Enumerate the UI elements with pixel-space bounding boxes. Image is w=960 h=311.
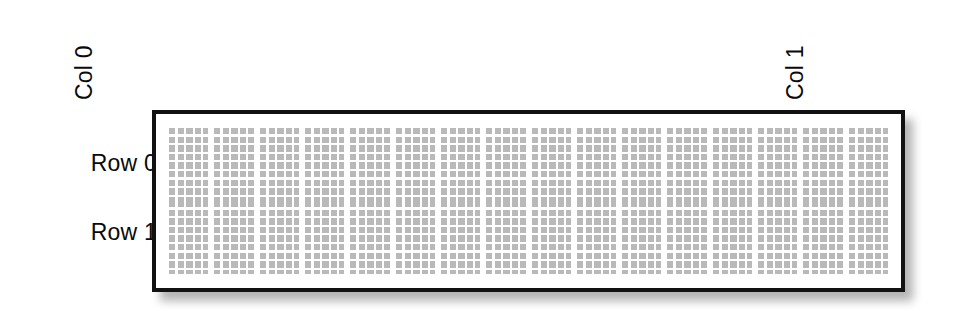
plate-cell-r1-c14 — [803, 201, 842, 274]
figure-canvas: Col 0 Col 1 Row 0 Row 1 — [0, 0, 960, 311]
plate-cell-r0-c1 — [214, 128, 253, 201]
plate-cell-r0-c6 — [441, 128, 480, 201]
plate-cell-r0-c14 — [803, 128, 842, 201]
plate-cell-r0-c7 — [486, 128, 525, 201]
plate-cell-r1-c9 — [577, 201, 616, 274]
plate-cell-r1-c0 — [169, 201, 208, 274]
column-label-col-0: Col 0 — [73, 45, 165, 100]
plate-cell-r0-c8 — [532, 128, 571, 201]
plate-cell-r1-c10 — [622, 201, 661, 274]
plate-cell-r1-c15 — [849, 201, 888, 274]
plate-cell-grid — [160, 118, 897, 284]
plate-cell-r0-c4 — [350, 128, 389, 201]
row-label-row-1: Row 1 — [0, 221, 157, 244]
plate-cell-r1-c1 — [214, 201, 253, 274]
plate-cell-r1-c3 — [305, 201, 344, 274]
plate-cell-r0-c5 — [396, 128, 435, 201]
plate-cell-r0-c9 — [577, 128, 616, 201]
plate-cell-r0-c10 — [622, 128, 661, 201]
plate-cell-r1-c13 — [758, 201, 797, 274]
plate-cell-r1-c4 — [350, 201, 389, 274]
plate-cell-r1-c11 — [667, 201, 706, 274]
plate-cell-r0-c12 — [713, 128, 752, 201]
plate-outline — [152, 110, 905, 292]
column-label-col-1: Col 1 — [784, 45, 876, 100]
plate-cell-r0-c2 — [260, 128, 299, 201]
plate-cell-r0-c13 — [758, 128, 797, 201]
row-label-row-0: Row 0 — [0, 152, 157, 175]
plate-cell-r1-c12 — [713, 201, 752, 274]
plate-cell-r0-c15 — [849, 128, 888, 201]
plate-cell-r1-c7 — [486, 201, 525, 274]
plate-cell-r1-c5 — [396, 201, 435, 274]
plate-cell-r1-c8 — [532, 201, 571, 274]
plate-cell-r0-c11 — [667, 128, 706, 201]
plate-cell-r1-c2 — [260, 201, 299, 274]
plate-cell-r1-c6 — [441, 201, 480, 274]
plate-cell-r0-c3 — [305, 128, 344, 201]
plate-cell-r0-c0 — [169, 128, 208, 201]
